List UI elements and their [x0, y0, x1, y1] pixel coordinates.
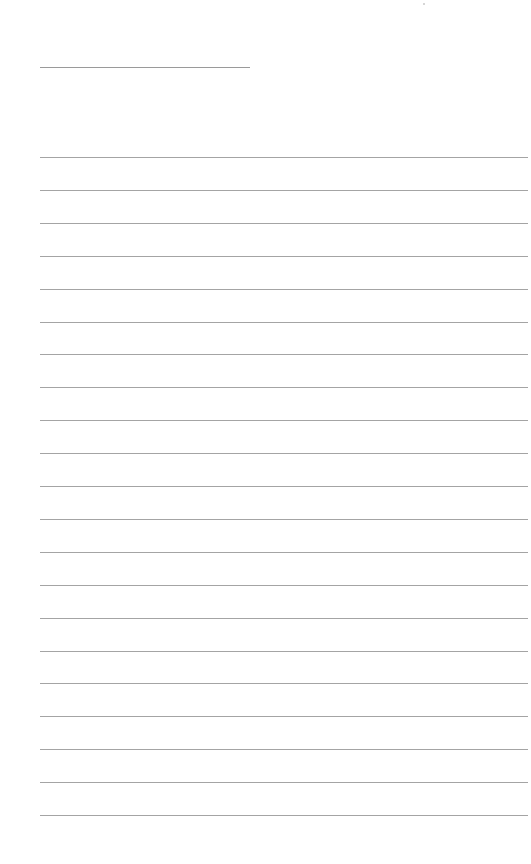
ruled-line [40, 683, 528, 684]
ruled-line [40, 651, 528, 652]
ruled-line [40, 223, 528, 224]
ruled-line [40, 815, 528, 816]
ruled-line [40, 585, 528, 586]
ruled-line [40, 289, 528, 290]
ruled-line [40, 354, 528, 355]
ruled-line [40, 782, 528, 783]
ruled-line [40, 387, 528, 388]
ruled-line [40, 618, 528, 619]
ruled-lines-area [40, 0, 528, 864]
ruled-line [40, 486, 528, 487]
ruled-line [40, 256, 528, 257]
ruled-line [40, 190, 528, 191]
ruled-line [40, 420, 528, 421]
ruled-line [40, 519, 528, 520]
ruled-line [40, 716, 528, 717]
ruled-line [40, 552, 528, 553]
ruled-line [40, 157, 528, 158]
ruled-page [0, 0, 531, 864]
ruled-line [40, 322, 528, 323]
ruled-line [40, 453, 528, 454]
ruled-line [40, 749, 528, 750]
